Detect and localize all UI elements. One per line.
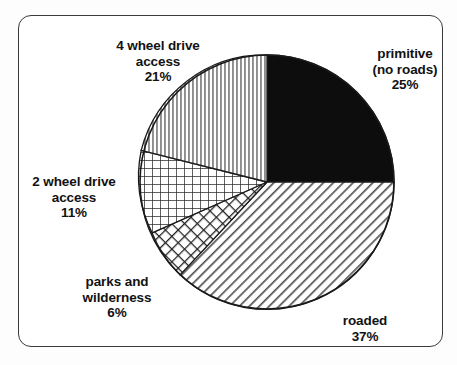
pie-label-four-wheel-drive-access: 4 wheel drive access 21% bbox=[90, 38, 226, 85]
pie-chart-area: primitive (no roads) 25% roaded 37% park… bbox=[0, 0, 457, 365]
figure-container: primitive (no roads) 25% roaded 37% park… bbox=[0, 0, 457, 365]
pie-label-roaded: roaded 37% bbox=[317, 313, 413, 344]
pie-label-parks-and-wilderness: parks and wilderness 6% bbox=[62, 274, 172, 321]
pie-label-primitive: primitive (no roads) 25% bbox=[355, 46, 455, 93]
pie-label-two-wheel-drive-access: 2 wheel drive access 11% bbox=[8, 174, 140, 221]
